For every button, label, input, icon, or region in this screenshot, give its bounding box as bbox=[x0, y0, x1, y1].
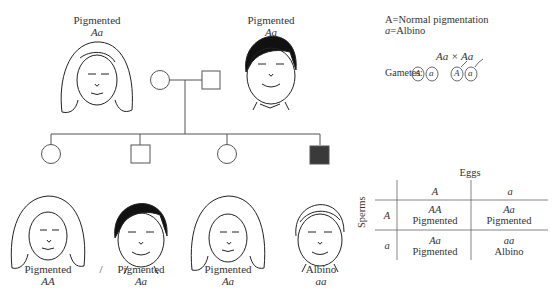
cell-genotype: Aa bbox=[474, 204, 544, 215]
phenotype: Pigmented bbox=[204, 263, 251, 275]
legend-line-normal: A=Normal pigmentation bbox=[385, 14, 489, 25]
cell-genotype: Aa bbox=[400, 235, 470, 246]
child1-face-icon bbox=[11, 196, 85, 268]
cell-phenotype: Pigmented bbox=[400, 246, 470, 257]
sperm-a: a bbox=[468, 68, 473, 78]
father-face-icon bbox=[246, 36, 297, 110]
cross-notation: Aa × Aa bbox=[436, 50, 473, 62]
punnett-cell-AA: AA Pigmented bbox=[400, 204, 470, 226]
pedigree-father-symbol bbox=[202, 71, 220, 89]
phenotype: Pigmented bbox=[117, 263, 164, 275]
genotype: Aa bbox=[111, 275, 171, 287]
pedigree-child4-symbol bbox=[310, 146, 329, 164]
legend-line-albino: a=Albino bbox=[385, 25, 489, 36]
phenotype: Pigmented bbox=[73, 14, 120, 26]
legend: A=Normal pigmentation a=Albino bbox=[385, 14, 489, 36]
father-label: Pigmented Aa bbox=[241, 14, 301, 38]
child2-label: Pigmented Aa bbox=[111, 263, 171, 287]
cell-genotype: AA bbox=[400, 204, 470, 215]
pedigree-mother-symbol bbox=[151, 71, 170, 90]
child1-label: Pigmented AA bbox=[18, 263, 78, 287]
row-header-a: a bbox=[380, 240, 394, 251]
col-header-A: A bbox=[425, 186, 445, 197]
child3-face-icon bbox=[191, 196, 265, 270]
child3-label: Pigmented Aa bbox=[198, 263, 258, 287]
mother-face-icon bbox=[61, 42, 132, 113]
punnett-cell-Aa-1: Aa Pigmented bbox=[474, 204, 544, 226]
cell-phenotype: Pigmented bbox=[400, 215, 470, 226]
child4-label: Albino aa bbox=[291, 263, 351, 287]
egg-A: A bbox=[415, 68, 421, 78]
phenotype: Pigmented bbox=[247, 14, 294, 26]
col-header-a: a bbox=[500, 186, 520, 197]
genotype: Aa bbox=[198, 275, 258, 287]
legend-text: =Normal pigmentation bbox=[393, 14, 489, 25]
cell-phenotype: Albino bbox=[474, 246, 544, 257]
cell-phenotype: Pigmented bbox=[474, 215, 544, 226]
sperm-A: A bbox=[454, 68, 460, 78]
mother-label: Pigmented Aa bbox=[67, 14, 127, 38]
phenotype: Pigmented bbox=[24, 263, 71, 275]
legend-text: =Albino bbox=[390, 25, 425, 36]
punnett-cell-Aa-2: Aa Pigmented bbox=[400, 235, 470, 257]
genotype: Aa bbox=[241, 26, 301, 38]
genotype: Aa bbox=[67, 26, 127, 38]
pedigree-child2-symbol bbox=[131, 145, 150, 163]
egg-a: a bbox=[429, 68, 434, 78]
pedigree-child1-symbol bbox=[42, 145, 61, 164]
punnett-cell-aa: aa Albino bbox=[474, 235, 544, 257]
genotype: aa bbox=[291, 275, 351, 287]
separator: / bbox=[96, 263, 106, 275]
genotype: AA bbox=[18, 275, 78, 287]
legend-symbol: A bbox=[385, 14, 393, 25]
punnett-eggs-label: Eggs bbox=[455, 167, 485, 178]
cell-genotype: aa bbox=[474, 235, 544, 246]
row-header-A: A bbox=[380, 210, 394, 221]
child4-face-icon bbox=[296, 205, 344, 272]
phenotype: Albino bbox=[306, 263, 337, 275]
pedigree-child3-symbol bbox=[218, 145, 237, 164]
punnett-sperms-label: Sperms bbox=[356, 197, 367, 229]
